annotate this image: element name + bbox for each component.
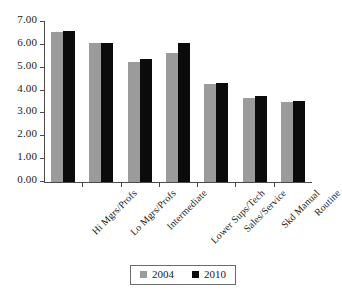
bar-2004-lower-sups-tech xyxy=(166,53,178,182)
y-axis-tick-mark xyxy=(40,112,45,113)
y-axis-tick-mark xyxy=(40,181,45,182)
plot-area: 0.001.002.003.004.005.006.007.00 xyxy=(44,22,312,182)
x-axis-separator-tick xyxy=(197,182,198,187)
y-axis-tick-mark xyxy=(40,135,45,136)
legend-entry: 2004 xyxy=(140,269,174,280)
bar-2004-routine xyxy=(281,102,293,182)
y-axis-tick-label: 1.00 xyxy=(17,151,37,162)
bar-2004-sales-service xyxy=(204,84,216,182)
bar-2004-skd-manual xyxy=(243,98,255,182)
y-axis-tick-label: 4.00 xyxy=(17,83,37,94)
bar-2010-lo-mgrs-profs xyxy=(101,43,113,182)
legend-swatch-icon xyxy=(140,271,147,278)
bar-2010-routine xyxy=(293,101,305,182)
x-axis-separator-tick xyxy=(274,182,275,187)
y-axis-tick-label: 3.00 xyxy=(17,105,37,116)
x-axis-separator-tick xyxy=(159,182,160,187)
legend-label: 2010 xyxy=(204,269,226,280)
bar-2010-lower-sups-tech xyxy=(178,43,190,182)
bar-2010-skd-manual xyxy=(255,96,267,182)
x-axis-line xyxy=(44,182,312,183)
bar-2004-hi-mgrs-profs xyxy=(51,32,63,182)
legend-label: 2004 xyxy=(152,269,174,280)
y-axis-tick-label: 2.00 xyxy=(17,128,37,139)
y-axis-tick-mark xyxy=(40,67,45,68)
y-axis-tick-label: 7.00 xyxy=(17,14,37,25)
bar-group xyxy=(166,22,190,182)
y-axis-tick-label: 0.00 xyxy=(17,174,37,185)
bar-group xyxy=(128,22,152,182)
bar-group xyxy=(89,22,113,182)
y-axis-tick-label: 6.00 xyxy=(17,37,37,48)
bar-2004-lo-mgrs-profs xyxy=(89,43,101,182)
bar-2010-sales-service xyxy=(216,83,228,182)
x-axis-separator-tick xyxy=(121,182,122,187)
bar-group xyxy=(204,22,228,182)
y-axis-tick-mark xyxy=(40,44,45,45)
bar-group xyxy=(51,22,75,182)
y-axis-tick-mark xyxy=(40,90,45,91)
bar-group xyxy=(281,22,305,182)
bar-2010-intermediate xyxy=(140,59,152,182)
bar-group xyxy=(243,22,267,182)
x-axis-separator-tick xyxy=(82,182,83,187)
x-axis-separator-tick xyxy=(235,182,236,187)
legend-swatch-icon xyxy=(192,271,199,278)
y-axis-tick-mark xyxy=(40,21,45,22)
bar-2010-hi-mgrs-profs xyxy=(63,31,75,182)
y-axis-tick-mark xyxy=(40,158,45,159)
y-axis-tick-label: 5.00 xyxy=(17,60,37,71)
legend-entry: 2010 xyxy=(192,269,226,280)
bar-2004-intermediate xyxy=(128,62,140,182)
chart-legend: 20042010 xyxy=(130,265,236,285)
